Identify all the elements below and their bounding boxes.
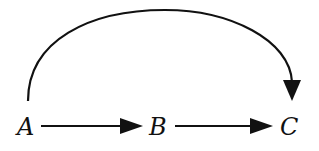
edge-a-to-b [41,118,143,134]
node-b-label: B [148,113,167,141]
node-c-label: C [280,113,298,141]
node-a-label: A [15,113,34,141]
arrowhead-icon [120,118,143,134]
arrowhead-icon [283,80,301,101]
edge-a-to-c [28,10,301,101]
curved-arrow-line [28,10,292,101]
causal-diagram: A B C [0,0,319,151]
arrowhead-icon [250,118,273,134]
edge-b-to-c [175,118,273,134]
